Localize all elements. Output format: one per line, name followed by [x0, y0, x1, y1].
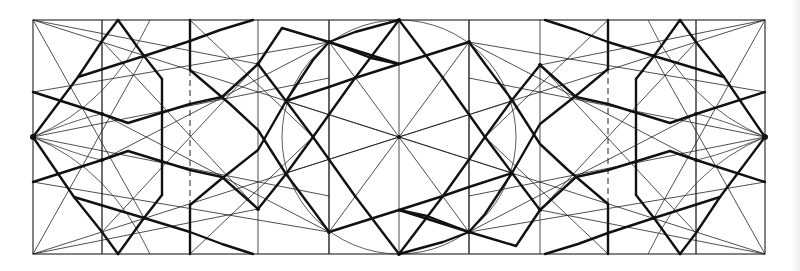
- pattern-figure: [0, 0, 800, 271]
- page-edge: [792, 0, 800, 271]
- pattern-drawing: [0, 0, 800, 271]
- left-half-pattern: [30, 20, 399, 254]
- right-half-pattern: [399, 20, 768, 254]
